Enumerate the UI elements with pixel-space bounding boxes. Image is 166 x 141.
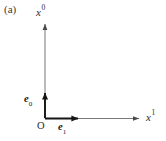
basis-vector-label-e1-subscript: 1	[63, 128, 67, 136]
coordinate-frame-drawing	[0, 0, 166, 141]
origin-label: O	[37, 121, 45, 132]
basis-vector-label-e1-base: e	[58, 121, 63, 132]
panel-letter: (a)	[4, 4, 16, 15]
axis-label-x1: x1	[146, 110, 155, 123]
basis-vector-label-e0-subscript: 0	[29, 100, 33, 108]
basis-vector-label-e1: e1	[58, 122, 66, 135]
axis-label-x1-superscript: 1	[151, 108, 155, 117]
figure-panel-a: (a) x0 x1 e0 e1 O	[0, 0, 166, 141]
basis-vector-label-e0-base: e	[24, 93, 29, 104]
basis-vector-label-e0: e0	[24, 94, 32, 107]
axis-label-x0: x0	[36, 5, 45, 18]
axis-label-x0-superscript: 0	[41, 3, 45, 12]
